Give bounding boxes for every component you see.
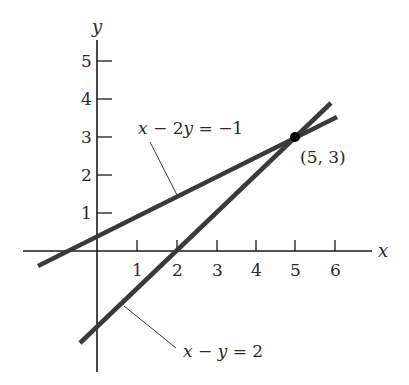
x-axis-label: x (378, 240, 388, 261)
intersection-label: (5, 3) (300, 147, 346, 167)
svg-text:3: 3 (212, 260, 223, 280)
svg-text:4: 4 (251, 260, 262, 280)
svg-text:2: 2 (172, 260, 183, 280)
svg-text:5: 5 (81, 51, 92, 71)
equation-label-1: x − 2y = −1 (138, 118, 243, 138)
svg-text:1: 1 (81, 203, 92, 223)
svg-text:6: 6 (330, 260, 341, 280)
leader-line-2 (124, 306, 176, 348)
y-ticks (97, 61, 112, 213)
equation-label-2: x − y = 2 (183, 341, 263, 361)
svg-text:4: 4 (81, 89, 92, 109)
linear-system-diagram: x y 1 2 3 4 5 6 1 2 (0, 0, 409, 385)
svg-text:1: 1 (132, 260, 143, 280)
y-tick-labels: 1 2 3 4 5 (81, 51, 92, 223)
intersection-point (290, 132, 300, 142)
leader-line-1 (150, 142, 177, 195)
x-ticks (137, 240, 335, 251)
y-axis-label: y (91, 16, 103, 37)
svg-text:5: 5 (290, 260, 301, 280)
svg-text:3: 3 (81, 127, 92, 147)
svg-text:2: 2 (81, 165, 92, 185)
